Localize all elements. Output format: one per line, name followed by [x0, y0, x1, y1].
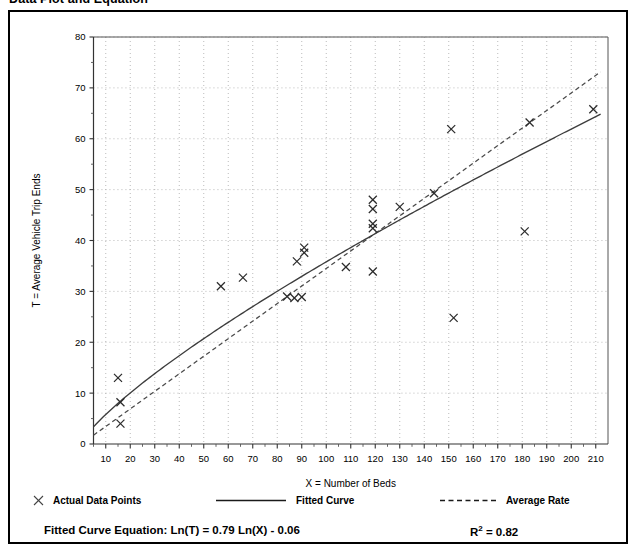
- svg-text:130: 130: [392, 453, 408, 464]
- svg-text:50: 50: [198, 453, 209, 464]
- svg-text:40: 40: [174, 453, 185, 464]
- svg-text:50: 50: [75, 184, 86, 195]
- data-point-marker: [450, 314, 458, 322]
- svg-text:X = Number of Beds: X = Number of Beds: [306, 478, 396, 489]
- data-point-marker: [342, 263, 350, 271]
- svg-text:70: 70: [75, 82, 86, 93]
- svg-text:20: 20: [125, 453, 136, 464]
- data-point-marker: [217, 282, 225, 290]
- data-point-marker: [293, 257, 301, 265]
- legend-label-fitted-curve: Fitted Curve: [296, 495, 354, 506]
- data-point-marker: [369, 268, 377, 276]
- data-point-marker: [239, 274, 247, 282]
- r-squared-number: = 0.82: [483, 526, 519, 538]
- svg-text:80: 80: [272, 453, 283, 464]
- scatter-plot-svg: 0102030405060708010203040506070809010011…: [0, 0, 636, 553]
- data-point-marker: [290, 294, 298, 302]
- data-point-marker: [116, 420, 124, 428]
- data-point-marker: [369, 224, 377, 232]
- data-point-marker: [114, 374, 122, 382]
- data-point-marker: [369, 205, 377, 213]
- svg-text:120: 120: [367, 453, 383, 464]
- svg-text:200: 200: [563, 453, 579, 464]
- svg-text:0: 0: [80, 438, 85, 449]
- svg-text:20: 20: [75, 337, 86, 348]
- svg-text:160: 160: [465, 453, 481, 464]
- svg-text:90: 90: [296, 453, 307, 464]
- chart-canvas: 0102030405060708010203040506070809010011…: [0, 0, 636, 553]
- svg-text:100: 100: [318, 453, 334, 464]
- legend-label-actual-data-points: Actual Data Points: [53, 495, 141, 506]
- chart-legend: Actual Data Points Fitted Curve Average …: [0, 493, 636, 515]
- data-point-marker: [300, 249, 308, 257]
- data-point-marker: [430, 189, 438, 197]
- svg-text:60: 60: [75, 133, 86, 144]
- legend-marker-fitted-curve: [216, 493, 290, 507]
- svg-text:30: 30: [75, 286, 86, 297]
- svg-text:150: 150: [441, 453, 457, 464]
- data-point-marker: [116, 398, 124, 406]
- equation-row: Fitted Curve Equation: Ln(T) = 0.79 Ln(X…: [0, 524, 636, 548]
- svg-text:210: 210: [588, 453, 604, 464]
- fitted-curve-equation: Fitted Curve Equation: Ln(T) = 0.79 Ln(X…: [44, 524, 300, 536]
- svg-text:T = Average Vehicle Trip Ends: T = Average Vehicle Trip Ends: [31, 174, 42, 308]
- data-point-marker: [369, 196, 377, 204]
- data-point-marker: [521, 227, 529, 235]
- svg-text:80: 80: [75, 31, 86, 42]
- svg-text:40: 40: [75, 235, 86, 246]
- svg-text:10: 10: [100, 453, 111, 464]
- data-point-marker: [526, 118, 534, 126]
- data-point-marker: [283, 292, 291, 300]
- r-squared-value: R2 = 0.82: [470, 524, 518, 538]
- svg-text:140: 140: [416, 453, 432, 464]
- svg-text:70: 70: [247, 453, 258, 464]
- data-point-marker: [298, 293, 306, 301]
- svg-text:170: 170: [490, 453, 506, 464]
- svg-text:180: 180: [514, 453, 530, 464]
- svg-text:110: 110: [343, 453, 358, 464]
- svg-text:30: 30: [149, 453, 160, 464]
- data-point-marker: [369, 220, 377, 228]
- svg-text:60: 60: [223, 453, 234, 464]
- legend-label-average-rate: Average Rate: [506, 495, 570, 506]
- svg-text:190: 190: [539, 453, 555, 464]
- legend-marker-average-rate: [440, 493, 500, 507]
- svg-text:10: 10: [75, 388, 86, 399]
